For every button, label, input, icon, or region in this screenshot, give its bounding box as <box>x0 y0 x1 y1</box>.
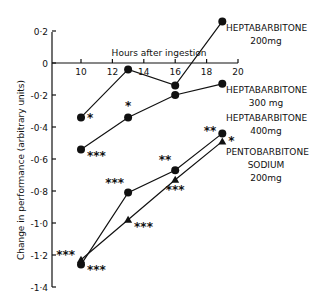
x-tick-label: 14 <box>138 67 150 77</box>
x-axis-ticks: 101214161820 <box>75 59 244 77</box>
y-tick-label: -0·8 <box>30 187 48 197</box>
x-tick-label: 20 <box>232 67 244 77</box>
significance-marker: *** <box>105 176 125 190</box>
y-tick-label: 0·2 <box>34 27 48 37</box>
series-line <box>81 84 222 150</box>
x-axis-title: Hours after ingestion <box>112 48 207 58</box>
circle-marker <box>124 189 132 197</box>
circle-marker <box>77 113 85 121</box>
y-tick-label: 0 <box>42 59 48 69</box>
y-tick-label: -1·2 <box>30 251 48 261</box>
y-tick-label: -1·0 <box>30 219 48 229</box>
y-tick-label: -1·4 <box>30 283 48 293</box>
triangle-marker <box>218 137 226 144</box>
significance-marker: ** <box>159 153 172 167</box>
series-label: 300 mg <box>249 98 284 108</box>
circle-marker <box>171 166 179 174</box>
series-label: PENTOBARBITONE <box>226 147 309 157</box>
x-tick-label: 12 <box>107 67 118 77</box>
series-label: HEPTABARBITONE <box>226 23 308 33</box>
series-label: 200mg <box>250 36 282 46</box>
significance-marker: ** <box>204 124 217 138</box>
significance-marker: *** <box>87 263 107 277</box>
series-label: HEPTABARBITONE <box>226 113 308 123</box>
circle-marker <box>77 145 85 153</box>
series-label: 400mg <box>250 126 282 136</box>
significance-marker: * <box>87 111 94 125</box>
x-tick-label: 18 <box>201 67 213 77</box>
significance-marker: *** <box>166 183 186 197</box>
circle-marker <box>218 129 226 137</box>
circle-marker <box>124 65 132 73</box>
line-chart: Change in performance (arbitrary units) … <box>0 0 326 308</box>
y-axis-title: Change in performance (arbitrary units) <box>16 80 26 260</box>
significance-marker: *** <box>134 220 154 234</box>
significance-marker: * <box>125 99 132 113</box>
y-tick-label: -0·4 <box>30 123 48 133</box>
circle-marker <box>171 81 179 89</box>
series-label: HEPTABARBITONE <box>226 85 308 95</box>
series-label: SODIUM <box>248 160 285 170</box>
circle-marker <box>124 113 132 121</box>
y-tick-label: -0·2 <box>30 91 48 101</box>
x-tick-label: 16 <box>169 67 181 77</box>
significance-marker: *** <box>87 149 107 163</box>
y-tick-label: -0·6 <box>30 155 48 165</box>
circle-marker <box>171 91 179 99</box>
significance-marker: *** <box>56 248 76 262</box>
series-label: 200mg <box>250 173 282 183</box>
x-tick-label: 10 <box>75 67 87 77</box>
